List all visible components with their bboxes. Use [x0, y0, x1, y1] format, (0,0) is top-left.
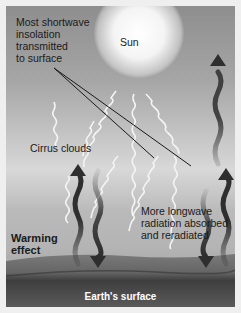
longwave-label: More longwave radiation absorbed and rer… — [141, 205, 228, 241]
earth-surface-label: Earth's surface — [6, 291, 235, 302]
longwave-arrows-left — [70, 164, 106, 268]
warming-effect-label: Warming effect — [11, 232, 58, 256]
shortwave-label: Most shortwave insolation transmitted to… — [16, 16, 90, 64]
cirrus-clouds-label: Cirrus clouds — [30, 142, 91, 154]
diagram-frame: Most shortwave insolation transmitted to… — [6, 6, 235, 307]
sun-label: Sun — [120, 36, 139, 48]
